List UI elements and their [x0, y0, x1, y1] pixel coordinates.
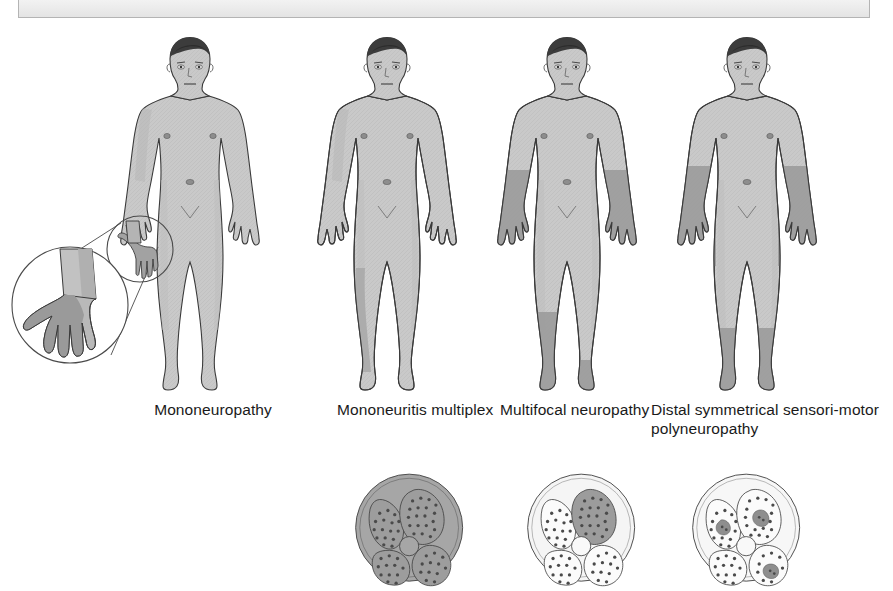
body-silhouette [318, 96, 457, 390]
clipped-header-bar [18, 0, 870, 18]
figure-mononeuritis-multiplex [312, 30, 462, 390]
nerve-cross-section-multifocal-centrofascicular [659, 468, 834, 588]
nerve-cross-section-single-fascicle [494, 468, 669, 588]
caption-mononeuritis-multiplex: Mononeuritis multiplex [337, 400, 497, 419]
figure-multifocal-neuropathy [492, 30, 642, 390]
body-silhouette [492, 96, 642, 395]
affected-right-lower-leg [528, 312, 558, 395]
central-vessel [400, 537, 419, 556]
head [364, 37, 410, 100]
caption-distal-symmetrical-polyneuropathy: Distal symmetrical sensori-motor polyneu… [651, 400, 893, 438]
nerve-cross-section-diffuse [322, 468, 497, 588]
affected-left-forearm-and-hand [778, 166, 822, 266]
hand-magnifier-inset [8, 195, 193, 370]
body-silhouette [672, 96, 822, 395]
magnifier-large-circle [12, 247, 128, 363]
central-vessel [572, 537, 591, 556]
fascicle-lower-right [584, 545, 623, 585]
central-vessel [737, 537, 756, 556]
head [167, 37, 213, 100]
fascicle-lower-right [412, 545, 451, 585]
affected-right-forearm-and-hand [672, 166, 716, 266]
caption-mononeuropathy: Mononeuropathy [118, 400, 308, 419]
head [544, 37, 590, 100]
figure-distal-symmetrical-polyneuropathy [672, 30, 822, 390]
caption-multifocal-neuropathy: Multifocal neuropathy [500, 400, 650, 419]
head [724, 37, 770, 100]
